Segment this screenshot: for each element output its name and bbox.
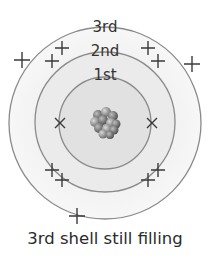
shell-diagram-graphic bbox=[0, 0, 210, 259]
atom-diagram: 3rd 2nd 1st 3rd shell still filling bbox=[0, 0, 210, 259]
shell-label-1st: 1st bbox=[85, 68, 125, 83]
electron-icon bbox=[184, 56, 200, 72]
diagram-caption: 3rd shell still filling bbox=[0, 229, 210, 248]
shell-label-3rd: 3rd bbox=[85, 20, 125, 35]
shell-label-2nd: 2nd bbox=[85, 44, 125, 59]
